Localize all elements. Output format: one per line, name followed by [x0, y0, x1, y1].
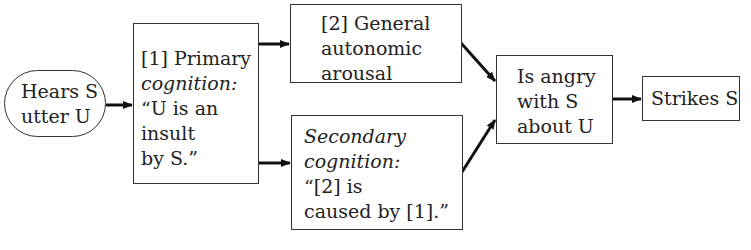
node-primary-line: by S.”	[141, 146, 258, 171]
node-primary-line: “U is an	[141, 96, 258, 121]
node-arousal-line: autonomic	[321, 36, 461, 61]
node-angry-line: about U	[517, 114, 612, 139]
arrow-secondary-to-angry	[462, 120, 495, 172]
node-secondary-line: caused by [1].”	[304, 199, 462, 224]
node-hears: Hears S utter U	[4, 70, 106, 137]
node-angry-line: Is angry	[517, 64, 612, 89]
node-primary-line: cognition:	[141, 71, 258, 96]
node-primary-line: insult	[141, 121, 258, 146]
node-primary-cognition: [1] Primary cognition: “U is an insult b…	[133, 23, 259, 184]
node-strikes-line: Strikes S	[651, 86, 739, 111]
node-hears-line: Hears S	[21, 79, 105, 104]
node-arousal-line: [2] General	[321, 11, 461, 36]
node-secondary-line: Secondary	[304, 124, 462, 149]
arrow-arousal-to-angry	[461, 43, 495, 81]
node-angry-line: with S	[517, 89, 612, 114]
node-secondary-line: “[2] is	[304, 174, 462, 199]
node-primary-line: [1] Primary	[141, 46, 258, 71]
node-general-arousal: [2] General autonomic arousal	[290, 4, 462, 83]
node-hears-line: utter U	[21, 104, 105, 129]
node-is-angry: Is angry with S about U	[496, 55, 613, 144]
node-strikes: Strikes S	[642, 76, 740, 121]
node-secondary-cognition: Secondary cognition: “[2] is caused by […	[291, 115, 463, 230]
node-secondary-line: cognition:	[304, 149, 462, 174]
node-arousal-line: arousal	[321, 61, 461, 86]
